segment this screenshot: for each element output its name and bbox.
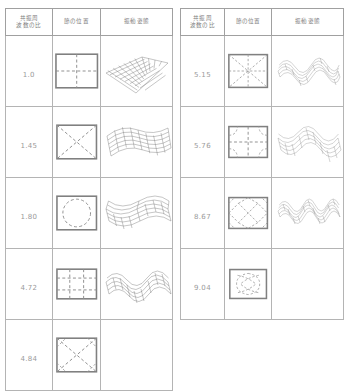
table-header-row-left: 共振周 波数の比 節の位置 振動姿態 xyxy=(6,9,173,36)
node-pattern-cell xyxy=(225,107,272,178)
mode-shape-tilted-flat-mesh xyxy=(102,43,172,99)
table-row: 9.04 xyxy=(181,249,344,320)
node-diagram-clover-loops xyxy=(225,263,271,305)
ratio-cell: 4.84 xyxy=(6,320,53,391)
ratio-value: 4.72 xyxy=(20,284,37,292)
ratio-cell: 9.04 xyxy=(181,249,225,320)
mode-shape-cell xyxy=(101,178,173,249)
ratio-cell: 1.80 xyxy=(6,178,53,249)
table-row: 1.45 xyxy=(6,107,173,178)
node-pattern-cell xyxy=(225,249,272,320)
mode-table-left-grid: 共振周 波数の比 節の位置 振動姿態 1.0 xyxy=(5,8,173,391)
ratio-cell: 4.72 xyxy=(6,249,53,320)
ratio-value: 9.04 xyxy=(194,284,211,292)
node-diagram-diagonal-x xyxy=(53,121,100,163)
table-row: 5.15 xyxy=(181,36,344,107)
ratio-cell: 8.67 xyxy=(181,178,225,249)
mode-shape-cell xyxy=(272,178,344,249)
mode-table-left-body: 1.0 xyxy=(6,36,173,391)
mode-table-right-grid: 共振周 波数の比 節の位置 振動姿態 5.15 xyxy=(180,8,344,320)
mode-shape-saddle-mesh xyxy=(102,114,172,170)
mode-shape-cell xyxy=(101,249,173,320)
ratio-value: 1.0 xyxy=(23,71,35,79)
mode-shape-table-page: 共振周 波数の比 節の位置 振動姿態 1.0 xyxy=(0,0,349,391)
header-frequency-ratio-line1-right: 共振周 xyxy=(181,15,224,22)
mode-shape-multi-lobe-mesh xyxy=(274,43,342,99)
mode-table-right-body: 5.15 xyxy=(181,36,344,320)
node-pattern-cell xyxy=(225,178,272,249)
header-frequency-ratio-line2-right: 波数の比 xyxy=(181,22,224,29)
ratio-value: 1.45 xyxy=(20,142,37,150)
header-vibration-shape-left: 振動姿態 xyxy=(101,9,173,36)
node-diagram-eight-ray-star xyxy=(225,50,271,92)
header-node-position-right: 節の位置 xyxy=(225,9,272,36)
ratio-value: 8.67 xyxy=(194,213,211,221)
header-frequency-ratio-left: 共振周 波数の比 xyxy=(6,9,53,36)
node-diagram-cross xyxy=(53,50,100,92)
node-pattern-cell xyxy=(52,249,100,320)
mode-shape-cell xyxy=(101,107,173,178)
mode-shape-cell-empty xyxy=(272,249,344,320)
ratio-value: 4.84 xyxy=(20,355,37,363)
table-header-row-right: 共振周 波数の比 節の位置 振動姿態 xyxy=(181,9,344,36)
node-pattern-cell xyxy=(52,320,100,391)
mode-shape-cell-empty xyxy=(101,320,173,391)
node-diagram-circle xyxy=(53,192,100,234)
table-row: 1.0 xyxy=(6,36,173,107)
mode-shape-rippled-sheet-mesh xyxy=(274,114,342,170)
mode-shape-dome-wave-mesh xyxy=(102,185,172,241)
ratio-value: 1.80 xyxy=(20,213,37,221)
node-diagram-x-with-corners xyxy=(53,334,100,376)
node-pattern-cell xyxy=(225,36,272,107)
mode-table-right: 共振周 波数の比 節の位置 振動姿態 5.15 xyxy=(180,8,344,320)
ratio-cell: 1.45 xyxy=(6,107,53,178)
table-row: 5.76 xyxy=(181,107,344,178)
header-frequency-ratio-right: 共振周 波数の比 xyxy=(181,9,225,36)
ratio-value: 5.76 xyxy=(194,142,211,150)
mode-shape-cell xyxy=(272,36,344,107)
mode-shape-high-order-mesh xyxy=(274,185,342,241)
mode-table-left: 共振周 波数の比 節の位置 振動姿態 1.0 xyxy=(5,8,173,391)
ratio-cell: 1.0 xyxy=(6,36,53,107)
node-pattern-cell xyxy=(52,178,100,249)
node-diagram-diamond-lattice xyxy=(225,192,271,234)
ratio-cell: 5.15 xyxy=(181,36,225,107)
node-diagram-grid-3x3 xyxy=(53,263,100,305)
table-row: 1.80 xyxy=(6,178,173,249)
header-frequency-ratio-line2-left: 波数の比 xyxy=(6,22,52,29)
table-row: 4.84 xyxy=(6,320,173,391)
table-row: 4.72 xyxy=(6,249,173,320)
header-vibration-shape-right: 振動姿態 xyxy=(272,9,344,36)
mode-shape-basin-ripple-mesh xyxy=(102,256,172,312)
node-diagram-cross-with-arcs xyxy=(225,121,271,163)
node-pattern-cell xyxy=(52,36,100,107)
node-pattern-cell xyxy=(52,107,100,178)
header-node-position-left: 節の位置 xyxy=(52,9,100,36)
ratio-cell: 5.76 xyxy=(181,107,225,178)
header-frequency-ratio-line1-left: 共振周 xyxy=(6,15,52,22)
mode-shape-cell xyxy=(272,107,344,178)
table-row: 8.67 xyxy=(181,178,344,249)
mode-shape-cell xyxy=(101,36,173,107)
ratio-value: 5.15 xyxy=(194,71,211,79)
